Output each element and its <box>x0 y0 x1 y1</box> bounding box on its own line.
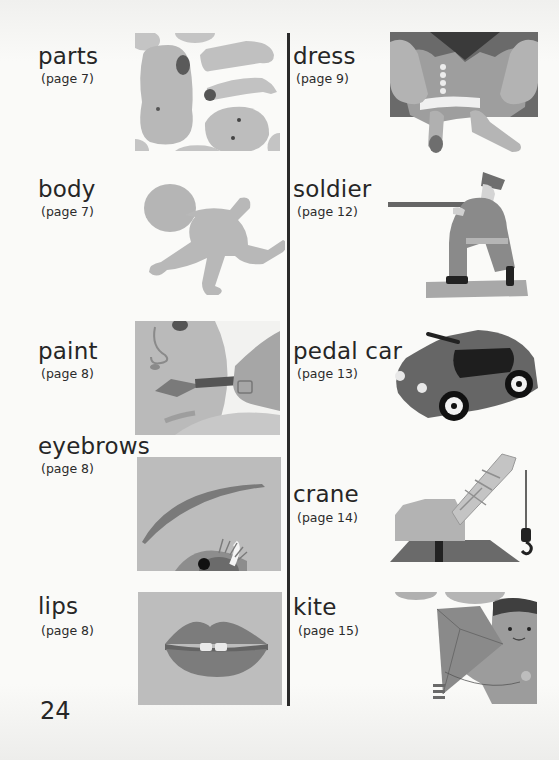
page-number: 24 <box>40 697 71 725</box>
eyebrow-and-eye-illustration <box>137 457 281 571</box>
lips-illustration <box>138 592 282 705</box>
entry-word: parts <box>38 43 98 69</box>
entry-word: crane <box>293 481 359 507</box>
column-divider <box>287 33 290 706</box>
entry-page-ref: (page 15) <box>298 623 359 638</box>
entry-word: soldier <box>293 176 371 202</box>
entry-page-ref: (page 8) <box>41 461 94 476</box>
entry-page-ref: (page 9) <box>296 71 349 86</box>
toy-crane-illustration <box>390 450 540 568</box>
entry-word: kite <box>293 594 337 620</box>
entry-page-ref: (page 8) <box>41 623 94 638</box>
entry-page-ref: (page 8) <box>41 366 94 381</box>
doll-parts-illustration <box>135 33 280 151</box>
toy-pedal-car-illustration <box>390 328 539 426</box>
entry-word: eyebrows <box>38 433 150 459</box>
entry-word: dress <box>293 43 356 69</box>
baby-doll-body-illustration <box>140 180 285 295</box>
entry-page-ref: (page 13) <box>297 366 358 381</box>
dressing-doll-illustration <box>390 32 538 154</box>
painting-doll-lips-illustration <box>135 321 280 435</box>
entry-page-ref: (page 12) <box>297 204 358 219</box>
entry-word: body <box>38 176 96 202</box>
entry-page-ref: (page 7) <box>41 71 94 86</box>
entry-page-ref: (page 7) <box>41 204 94 219</box>
entry-word: lips <box>38 593 78 619</box>
entry-page-ref: (page 14) <box>297 510 358 525</box>
entry-word: pedal car <box>293 338 402 364</box>
boy-with-kite-illustration <box>395 592 540 704</box>
entry-word: paint <box>38 338 98 364</box>
kneeling-toy-soldier-illustration <box>388 170 538 298</box>
book-page: parts (page 7) body (page 7) <box>0 0 559 760</box>
